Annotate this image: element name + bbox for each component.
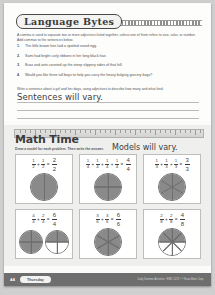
list-item[interactable]: 2. Sami had bright curly ribbons in her …	[17, 54, 202, 59]
question-text: Sami had bright curly ribbons in her lon…	[25, 54, 107, 59]
worksheet-page: Language Bytes A comma is used to separa…	[4, 3, 211, 286]
page-footer: 44 Thursday Daily Summer Activities • EM…	[4, 273, 211, 286]
question-text: Would you like three tall boys to help y…	[25, 73, 152, 78]
language-title-row: Language Bytes	[16, 14, 202, 29]
fraction: 12	[32, 159, 36, 170]
ruler-tick	[150, 130, 151, 133]
model-area	[94, 170, 122, 203]
plus-sign: +	[170, 162, 173, 167]
problem-equation: 14+14+14+14=44	[85, 159, 130, 170]
list-item[interactable]: 3. Buzz and ants counted up the steep sl…	[17, 63, 202, 68]
fraction: 14	[105, 159, 109, 170]
fraction: 12	[41, 159, 45, 170]
equals-sign: =	[47, 217, 50, 222]
pie-divider	[20, 241, 42, 242]
list-item[interactable]: 1. The little brown hen laid a spotted r…	[17, 44, 202, 49]
question-number: 2.	[17, 54, 25, 59]
problem-equation: 28+28=48	[159, 214, 185, 225]
writing-line[interactable]	[17, 110, 199, 111]
fraction: 14	[86, 159, 90, 170]
ruler-tick	[140, 130, 141, 133]
ruler-tick	[90, 130, 91, 133]
fraction: 14	[96, 159, 100, 170]
fraction: 28	[169, 214, 173, 225]
ruler-tick	[200, 130, 201, 133]
plus-sign: +	[111, 162, 114, 167]
plus-sign: +	[101, 217, 104, 222]
ruler-tick	[180, 130, 181, 133]
ruler-tick	[125, 130, 126, 133]
plus-sign: +	[37, 217, 40, 222]
language-intro-text: A comma is used to separate two or more …	[17, 33, 197, 42]
math-section-title: Math Time	[15, 133, 79, 146]
writing-line[interactable]	[17, 118, 199, 119]
title-dashed-rule	[112, 20, 202, 26]
model-area	[158, 225, 186, 258]
ruler-tick	[80, 130, 81, 133]
writing-line[interactable]	[17, 102, 199, 103]
ruler-tick	[110, 130, 111, 133]
plus-sign: +	[101, 162, 104, 167]
plus-sign: +	[160, 162, 163, 167]
fraction: 28	[160, 214, 164, 225]
list-item[interactable]: 4. Would you like three tall boys to hel…	[17, 73, 202, 78]
ruler-tick	[85, 130, 86, 133]
ruler-tick	[95, 130, 96, 135]
problem-cell[interactable]: 36+36=66	[79, 209, 137, 259]
ruler-tick	[195, 130, 196, 135]
language-bytes-section: Language Bytes A comma is used to separa…	[4, 3, 211, 121]
fraction-circle-model	[45, 230, 69, 254]
handwritten-note: Models will vary.	[112, 143, 178, 152]
question-number: 4.	[17, 73, 25, 78]
fraction: 44	[126, 157, 131, 171]
equals-sign: =	[120, 162, 123, 167]
ruler-tick	[145, 130, 146, 133]
problem-cell[interactable]: 44+24=64	[15, 209, 73, 259]
model-area	[19, 225, 69, 258]
fraction: 24	[41, 214, 45, 225]
fraction: 13	[174, 159, 178, 170]
ruler-tick	[190, 130, 191, 133]
question-text: The little brown hen laid a spotted roun…	[25, 44, 97, 49]
problem-grid: 12+12=2214+14+14+14=4413+13+13=3344+24=6…	[15, 154, 201, 264]
problem-cell[interactable]: 28+28=48	[143, 209, 201, 259]
math-time-section: Math Time Draw a model for each problem.…	[4, 125, 211, 266]
problem-equation: 12+12=22	[31, 159, 57, 170]
problem-row: 44+24=6436+36=6628+28=48	[15, 209, 201, 259]
math-directions: Draw a model for each problem. Then writ…	[15, 147, 104, 151]
ruler-tick	[120, 130, 121, 133]
fraction-circle-model	[30, 173, 58, 201]
pie-divider	[95, 186, 121, 187]
handwritten-answer: Sentences will vary.	[17, 92, 103, 102]
footer-credit: Daily Summer Activities • EMC 1072 • © E…	[138, 278, 204, 281]
fraction-circle-model	[94, 228, 122, 256]
problem-equation: 44+24=64	[31, 214, 57, 225]
day-badge: Thursday	[20, 276, 51, 282]
fraction: 36	[105, 214, 109, 225]
problem-cell[interactable]: 14+14+14+14=44	[79, 154, 137, 204]
question-number: 3.	[17, 63, 25, 68]
fraction-circle-model	[158, 228, 186, 256]
equals-sign: =	[180, 162, 183, 167]
plus-sign: +	[165, 217, 168, 222]
ruler-tick	[185, 130, 186, 133]
model-area	[30, 170, 58, 203]
ruler-tick	[160, 130, 161, 133]
model-area	[158, 170, 186, 203]
problem-cell[interactable]: 13+13+13=33	[143, 154, 201, 204]
fraction: 36	[96, 214, 100, 225]
pie-divider	[46, 241, 68, 242]
ruler-tick	[105, 130, 106, 133]
ruler-tick	[130, 130, 131, 133]
equals-sign: =	[175, 217, 178, 222]
ruler-tick	[175, 130, 176, 135]
problem-cell[interactable]: 12+12=22	[15, 154, 73, 204]
plus-sign: +	[37, 162, 40, 167]
problem-equation: 13+13+13=33	[154, 159, 190, 170]
fraction: 14	[115, 159, 119, 170]
question-number: 1.	[17, 44, 25, 49]
page-number: 44	[10, 277, 15, 282]
writing-prompt: Write a sentence about a girl and her do…	[17, 87, 202, 91]
ruler-tick	[170, 130, 171, 133]
equals-sign: =	[111, 217, 114, 222]
